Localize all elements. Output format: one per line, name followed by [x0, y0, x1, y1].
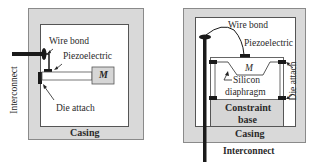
- right-die-attach-label: Die attach: [288, 62, 298, 101]
- right-interconnect-label: Interconnect: [223, 146, 275, 156]
- right-piezoelectric-label: Piezoelectric: [244, 38, 293, 48]
- right-mass-label: M: [245, 63, 253, 73]
- right-wire-bond-pad: [199, 35, 211, 40]
- right-constraint-label: Constraint: [225, 103, 271, 113]
- right-piezoelectric-pad: [240, 54, 250, 58]
- right-diaphragm-label: diaphragm: [225, 87, 266, 97]
- right-casing-label: Casing: [235, 129, 264, 139]
- right-silicon-label: Silicon: [233, 75, 260, 85]
- right-die-attach-bottom-right: [278, 96, 286, 100]
- right-wire-bond-label: Wire bond: [228, 20, 268, 30]
- right-die-attach-top-right: [278, 60, 286, 64]
- right-wire-bond-wire: [206, 27, 244, 55]
- right-die-attach-top-left: [209, 60, 217, 64]
- right-die-attach-bottom-left: [209, 96, 217, 100]
- right-base-label: base: [238, 115, 257, 125]
- right-interconnect-rod: [203, 36, 207, 162]
